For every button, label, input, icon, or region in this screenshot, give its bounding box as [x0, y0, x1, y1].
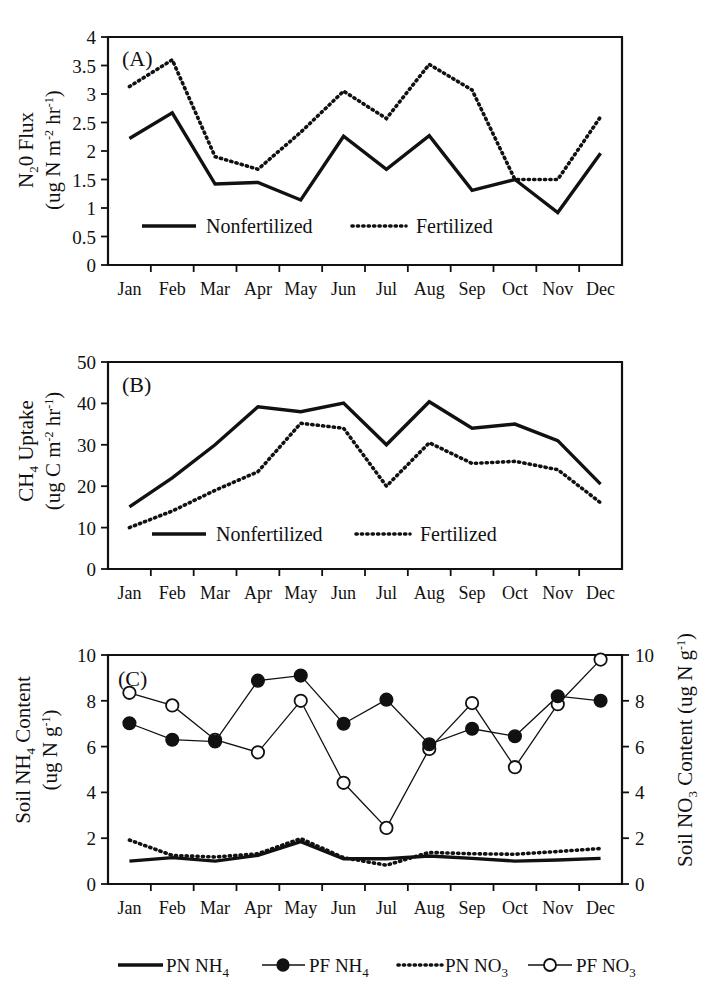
y-tick-label-right: 6: [635, 737, 645, 758]
panel-a-series-nonfertilized: [129, 113, 600, 213]
panel-c-series-pf-no3-line: [129, 660, 600, 828]
y-tick-label-right: 0: [635, 874, 645, 895]
month-label: Dec: [586, 279, 615, 299]
panel-c-y-ticks-right: 0246810: [622, 645, 654, 895]
panel-c-legend-label-pn-nh4: PN NH4: [166, 955, 229, 980]
y-tick-label: 0: [87, 874, 97, 895]
panel-b-legend: Nonfertilized Fertilized: [152, 523, 497, 545]
svg-text:(ug C m-2 hr-1): (ug C m-2 hr-1): [41, 392, 65, 511]
month-label: Jan: [117, 279, 141, 299]
month-label: Jul: [376, 583, 397, 603]
y-tick-label: 3: [87, 84, 97, 105]
month-label: Nov: [542, 898, 573, 918]
panel-b-legend-label-nonfertilized: Nonfertilized: [216, 523, 323, 545]
y-tick-label: 4: [87, 782, 97, 803]
month-label: Sep: [459, 583, 486, 603]
y-tick-label: 3.5: [72, 56, 96, 77]
y-tick-label: 2: [87, 141, 97, 162]
y-tick-label: 10: [77, 645, 96, 666]
svg-text:CH4 Uptake: CH4 Uptake: [14, 400, 41, 502]
y-tick-label-right: 4: [635, 782, 645, 803]
data-point-open: [594, 653, 606, 665]
panel-c-legend-label-pf-no3: PF NO3: [576, 955, 636, 980]
panel-c-legend: PN NH4 PF NH4 PN NO3 PF NO3: [118, 955, 636, 980]
month-label: Feb: [159, 898, 186, 918]
panel-a-tag: (A): [122, 46, 153, 71]
svg-text:(ug N m-2 hr-1): (ug N m-2 hr-1): [41, 90, 65, 210]
month-label: Apr: [244, 279, 272, 299]
data-point-open: [466, 697, 478, 709]
month-label: Aug: [414, 583, 445, 603]
panel-c-left-axis-title: Soil NH4 Content: [11, 676, 38, 824]
panel-c-tag: (C): [118, 666, 147, 691]
month-label: Sep: [459, 279, 486, 299]
panel-c-legend-label-pn-no3: PN NO3: [445, 955, 508, 980]
y-tick-label: 8: [87, 691, 97, 712]
month-label: Mar: [200, 583, 230, 603]
panel-b-y-axis-title-units: (ug C m-2 hr-1): [41, 392, 65, 511]
panel-c-left-axis-title-units: (ug N g-1): [38, 709, 62, 790]
y-tick-label: 40: [77, 393, 96, 414]
y-tick-label: 0: [87, 559, 97, 580]
panel-b-y-axis-title: CH4 Uptake: [14, 400, 41, 502]
panel-a-month-labels: JanFebMarAprMayJunJulAugSepOctNovDec: [117, 279, 615, 299]
month-label: Aug: [414, 279, 445, 299]
data-point-filled: [294, 669, 307, 682]
month-label: Mar: [200, 279, 230, 299]
data-point-filled: [252, 674, 265, 687]
y-tick-label: 1: [87, 198, 97, 219]
y-tick-label: 1.5: [72, 170, 96, 191]
month-label: Mar: [200, 898, 230, 918]
month-label: Jan: [117, 898, 141, 918]
y-tick-label: 6: [87, 737, 97, 758]
month-label: Nov: [542, 583, 573, 603]
panel-a-svg: N20 Flux (ug N m-2 hr-1) 00.511.522.533.…: [0, 0, 710, 320]
month-label: May: [284, 583, 317, 603]
panel-a-y-ticks: 00.511.522.533.54: [72, 27, 108, 276]
panel-a-y-axis-title-units: (ug N m-2 hr-1): [41, 90, 65, 210]
svg-text:(ug N g-1): (ug N g-1): [38, 709, 62, 790]
y-tick-label: 0.5: [72, 227, 96, 248]
panel-a: N20 Flux (ug N m-2 hr-1) 00.511.522.533.…: [0, 0, 710, 320]
panel-b-legend-label-fertilized: Fertilized: [420, 523, 497, 545]
y-tick-label: 4: [87, 27, 97, 48]
panel-c-markers-pf-no3: [123, 653, 607, 834]
month-label: Jan: [117, 583, 141, 603]
data-point-filled: [209, 735, 222, 748]
month-label: Apr: [244, 583, 272, 603]
y-tick-label: 2: [87, 828, 97, 849]
data-point-open: [166, 699, 178, 711]
month-label: Oct: [502, 583, 528, 603]
data-point-filled: [551, 690, 564, 703]
figure-root: N20 Flux (ug N m-2 hr-1) 00.511.522.533.…: [0, 0, 710, 994]
y-tick-label: 30: [77, 435, 96, 456]
month-label: Nov: [542, 279, 573, 299]
panel-c-svg: Soil NH4 Content (ug N g-1) Soil NO3 Con…: [0, 620, 710, 994]
data-point-filled: [123, 717, 136, 730]
month-label: Sep: [459, 898, 486, 918]
month-label: Apr: [244, 898, 272, 918]
data-point-filled: [337, 717, 350, 730]
data-point-filled: [380, 693, 393, 706]
month-label: Oct: [502, 279, 528, 299]
month-label: Jun: [331, 583, 356, 603]
panel-c-legend-marker-pf-no3: [544, 959, 556, 971]
svg-text:N20 Flux: N20 Flux: [14, 112, 41, 188]
month-label: Feb: [159, 583, 186, 603]
svg-text:Soil NH4 Content: Soil NH4 Content: [11, 676, 38, 824]
panel-c-y-ticks-left: 0246810: [77, 645, 108, 895]
data-point-open: [252, 746, 264, 758]
panel-c-series-pf-nh4-line: [129, 676, 600, 745]
data-point-filled: [594, 694, 607, 707]
panel-b-svg: CH4 Uptake (ug C m-2 hr-1) 01020304050 J…: [0, 326, 710, 626]
panel-a-legend-label-fertilized: Fertilized: [416, 215, 493, 237]
month-label: Jul: [376, 898, 397, 918]
y-tick-label: 50: [77, 352, 96, 373]
month-label: Dec: [586, 898, 615, 918]
panel-a-legend-label-nonfertilized: Nonfertilized: [206, 215, 313, 237]
panel-c-legend-label-pf-nh4: PF NH4: [309, 955, 369, 980]
panel-c-month-labels: JanFebMarAprMayJunJulAugSepOctNovDec: [117, 898, 615, 918]
month-label: Feb: [159, 279, 186, 299]
panel-c-plot-frame: [108, 655, 622, 884]
panel-a-legend: Nonfertilized Fertilized: [142, 215, 493, 237]
